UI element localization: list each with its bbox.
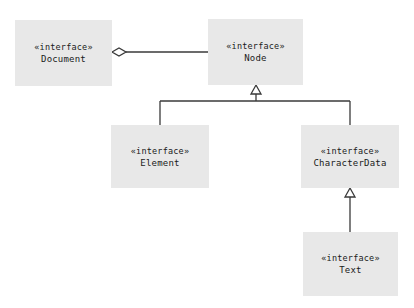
class-box-element[interactable]: «interface» Element — [111, 125, 209, 188]
class-box-node[interactable]: «interface» Node — [208, 19, 303, 85]
class-stereotype: «interface» — [131, 145, 190, 157]
uml-class-diagram: «interface» Document «interface» Node «i… — [0, 0, 414, 308]
hollow-triangle-icon — [345, 188, 355, 197]
class-name: CharacterData — [313, 157, 386, 169]
hollow-diamond-icon — [112, 48, 126, 56]
class-stereotype: «interface» — [321, 252, 380, 264]
class-box-characterdata[interactable]: «interface» CharacterData — [301, 125, 399, 188]
class-name: Document — [41, 53, 86, 65]
class-name: Element — [140, 157, 179, 169]
aggregation-document-node — [112, 48, 208, 56]
class-name: Node — [244, 52, 266, 64]
class-stereotype: «interface» — [321, 145, 380, 157]
generalization-node-children — [160, 85, 350, 125]
class-stereotype: «interface» — [34, 41, 93, 53]
hollow-triangle-icon — [251, 85, 261, 94]
class-stereotype: «interface» — [226, 40, 285, 52]
class-box-text[interactable]: «interface» Text — [303, 232, 398, 296]
class-box-document[interactable]: «interface» Document — [15, 20, 112, 86]
class-name: Text — [339, 264, 361, 276]
generalization-text-characterdata — [345, 188, 355, 232]
